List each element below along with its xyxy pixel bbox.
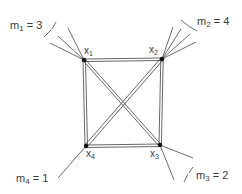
m2-sub: 2 (206, 20, 210, 29)
vertex-label-x3: x3 (150, 149, 159, 160)
multiplicity-label-m2: m2 = 4 (197, 16, 229, 29)
vertex-x2 (160, 57, 164, 61)
vertex-label-x4: x4 (86, 149, 95, 160)
graph-edges (83, 58, 163, 148)
vertex-label-x1: x1 (84, 46, 93, 57)
m2-main: m (197, 15, 206, 27)
vertex-x1 (82, 58, 86, 62)
m3-main: m (196, 169, 205, 181)
m2-value: = 4 (214, 15, 230, 27)
vertex-label-x3-sub: 3 (155, 153, 159, 160)
m3-value: = 2 (213, 169, 229, 181)
m1-value: = 3 (27, 19, 43, 31)
vertex-x3 (158, 143, 162, 147)
half-edges (50, 27, 196, 180)
m1-sub: 1 (19, 24, 23, 33)
m4-main: m (16, 172, 25, 184)
m3-sub: 3 (205, 174, 209, 183)
vertex-label-x1-sub: 1 (89, 50, 93, 57)
m1-main: m (10, 19, 19, 31)
m4-value: = 1 (33, 172, 49, 184)
multiplicity-label-m3: m3 = 2 (196, 170, 228, 183)
vertex-label-x2: x2 (149, 45, 158, 56)
vertex-label-x4-sub: 4 (91, 153, 95, 160)
multiplicity-label-m1: m1 = 3 (10, 20, 42, 33)
m4-sub: 4 (25, 177, 29, 186)
multiplicity-label-m4: m4 = 1 (16, 173, 48, 186)
vertex-label-x2-sub: 2 (154, 49, 158, 56)
